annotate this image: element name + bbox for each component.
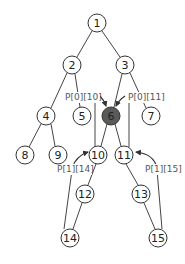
edge-12-14 <box>73 203 82 229</box>
svg-text:8: 8 <box>22 149 29 162</box>
node-14: 14 <box>61 229 79 247</box>
edge-1-2 <box>77 31 92 57</box>
svg-text:11: 11 <box>117 149 131 162</box>
pointer-line-15 <box>157 170 162 229</box>
edge-6-11 <box>115 124 121 146</box>
node-12: 12 <box>76 185 94 203</box>
svg-text:9: 9 <box>55 149 62 162</box>
edge-4-9 <box>51 124 55 146</box>
node-11: 11 <box>115 146 133 164</box>
node-4: 4 <box>37 107 55 125</box>
pointer-arrow-p0-11 <box>116 96 125 106</box>
svg-text:15: 15 <box>151 232 165 245</box>
edge-13-15 <box>144 203 155 229</box>
svg-text:4: 4 <box>43 110 50 123</box>
node-1: 1 <box>88 14 106 32</box>
tree-diagram: P[0][10] P[0][11] P[1][14] P[1][15] 1 2 … <box>0 0 185 264</box>
svg-text:3: 3 <box>122 59 129 72</box>
tree-nodes: 1 2 3 4 5 6 7 8 9 10 11 12 13 14 15 <box>16 14 167 247</box>
node-2: 2 <box>63 56 81 74</box>
pointer-label-p0-10: P[0][10] <box>65 92 102 102</box>
node-5: 5 <box>73 107 91 125</box>
node-7: 7 <box>142 107 160 125</box>
edge-11-13 <box>126 164 138 185</box>
pointer-label-p1-14: P[1][14] <box>57 164 94 174</box>
svg-text:13: 13 <box>134 188 148 201</box>
node-8: 8 <box>16 146 34 164</box>
svg-text:5: 5 <box>79 110 86 123</box>
node-3: 3 <box>116 56 134 74</box>
edge-1-3 <box>102 31 120 57</box>
svg-text:7: 7 <box>148 110 155 123</box>
svg-text:14: 14 <box>63 232 77 245</box>
svg-text:12: 12 <box>78 188 92 201</box>
node-13: 13 <box>132 185 150 203</box>
pointer-line-14 <box>64 170 72 229</box>
node-10: 10 <box>89 146 107 164</box>
node-9: 9 <box>49 146 67 164</box>
pointer-label-p0-11: P[0][11] <box>128 92 165 102</box>
edge-4-8 <box>29 124 41 147</box>
node-6-highlighted: 6 <box>102 107 120 125</box>
node-15: 15 <box>149 229 167 247</box>
svg-text:1: 1 <box>94 17 101 30</box>
svg-text:6: 6 <box>108 110 115 123</box>
pointer-label-p1-15: P[1][15] <box>145 164 182 174</box>
svg-text:2: 2 <box>69 59 76 72</box>
svg-text:10: 10 <box>91 149 105 162</box>
edge-6-10 <box>101 124 107 146</box>
